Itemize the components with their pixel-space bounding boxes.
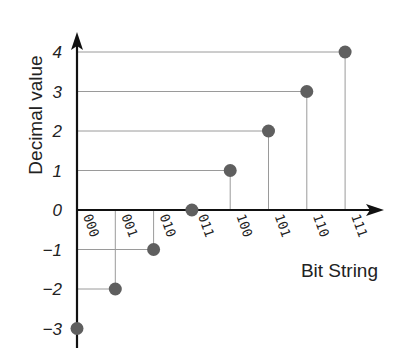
y-tick-label: 4: [53, 43, 62, 62]
y-tick-label: −3: [43, 320, 63, 339]
x-category-label: 111: [348, 212, 370, 239]
x-category-label: 110: [310, 212, 332, 239]
y-tick-label: 1: [53, 162, 62, 181]
x-category-label: 011: [195, 212, 217, 239]
x-category-labels: 000001010011100101110111: [80, 212, 370, 239]
y-tick-label: 2: [52, 122, 63, 141]
x-category-label: 000: [80, 212, 102, 239]
x-category-label: 001: [118, 212, 140, 239]
data-point-000: [71, 322, 84, 335]
y-axis-title: Decimal value: [25, 55, 46, 174]
bit-string-chart: 43210−1−2−3 000001010011100101110111 Dec…: [0, 0, 403, 358]
data-point-111: [339, 46, 352, 59]
data-point-110: [300, 85, 313, 98]
data-point-001: [109, 283, 122, 296]
x-axis-title: Bit String: [301, 260, 378, 281]
axes: [71, 32, 384, 348]
data-point-100: [224, 164, 237, 177]
data-point-010: [147, 243, 160, 256]
x-category-label: 101: [272, 212, 294, 239]
x-category-label: 100: [233, 212, 255, 239]
y-tick-label: 3: [53, 83, 63, 102]
x-category-label: 010: [157, 212, 179, 239]
y-tick-label: −1: [43, 241, 62, 260]
y-tick-label: −2: [43, 280, 63, 299]
data-points: [71, 46, 352, 336]
y-tick-label: 0: [53, 201, 63, 220]
data-point-011: [185, 204, 198, 217]
data-point-101: [262, 125, 275, 138]
